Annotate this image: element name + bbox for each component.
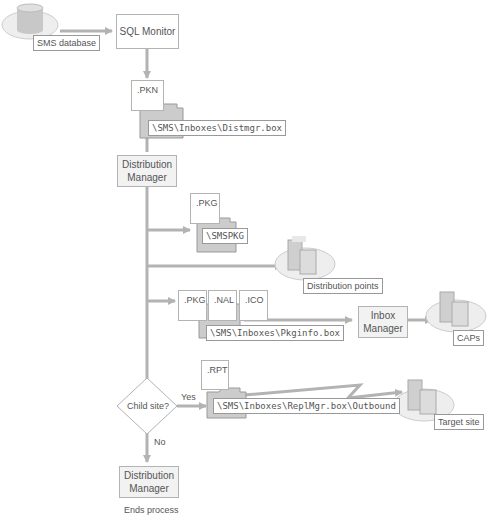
distribution-manager-end-node: Distribution Manager bbox=[119, 466, 179, 498]
distmgr-box-path: \SMS\Inboxes\Distmgr.box bbox=[148, 120, 286, 136]
yes-label: Yes bbox=[181, 392, 196, 402]
sms-database-label: SMS database bbox=[33, 35, 100, 51]
inbox-manager-node: Inbox Manager bbox=[358, 306, 408, 338]
server-icon-caps bbox=[440, 292, 468, 326]
smspkg-path: \SMSPKG bbox=[202, 228, 248, 244]
distribution-points-label: Distribution points bbox=[303, 278, 383, 294]
replmgr-outbound-path: \SMS\Inboxes\ReplMgr.box\Outbound bbox=[213, 398, 400, 414]
ends-process-label: Ends process bbox=[124, 505, 179, 515]
pkg-file-2: .PKG bbox=[178, 290, 207, 321]
connectors bbox=[0, 0, 492, 522]
nal-file: .NAL bbox=[208, 290, 237, 321]
distribution-flow-diagram: SMS database SQL Monitor .PKN \SMS\Inbox… bbox=[0, 0, 492, 522]
target-site-label: Target site bbox=[434, 414, 484, 430]
sql-monitor-node: SQL Monitor bbox=[116, 14, 179, 49]
database-icon bbox=[17, 4, 43, 34]
pkn-file: .PKN bbox=[131, 80, 164, 111]
no-label: No bbox=[154, 437, 166, 447]
pkginfo-box-path: \SMS\Inboxes\Pkginfo.box bbox=[206, 325, 344, 341]
caps-label: CAPs bbox=[453, 330, 484, 346]
server-icon-target-site bbox=[408, 380, 436, 414]
ico-file: .ICO bbox=[239, 290, 268, 321]
pkg-file: .PKG bbox=[190, 193, 220, 224]
server-icon-distribution-points bbox=[288, 236, 316, 274]
distribution-manager-node: Distribution Manager bbox=[117, 155, 177, 187]
rpt-file: .RPT bbox=[201, 360, 229, 390]
child-site-decision: Child site? bbox=[127, 401, 169, 411]
